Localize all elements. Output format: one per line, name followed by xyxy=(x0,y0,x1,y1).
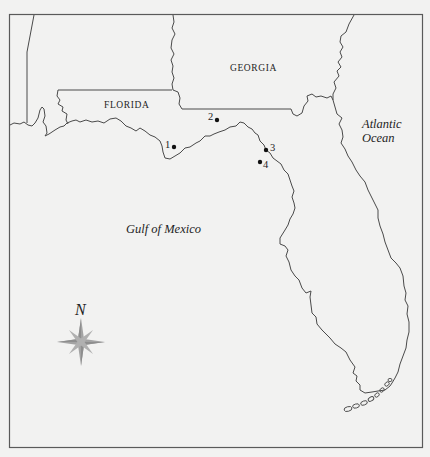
site-1-label: 1 xyxy=(165,140,170,151)
label-georgia: GEORGIA xyxy=(230,64,277,74)
site-1-dot xyxy=(172,145,176,149)
site-3-label: 3 xyxy=(270,143,275,154)
compass-rose-icon xyxy=(57,318,105,366)
north-label: N xyxy=(75,302,86,318)
gulf-coastline xyxy=(10,107,390,393)
florida-map: FLORIDA GEORGIA Atlantic Ocean Gulf of M… xyxy=(0,0,430,457)
site-4-label: 4 xyxy=(263,160,268,171)
label-florida: FLORIDA xyxy=(104,101,149,111)
map-graphic xyxy=(0,0,430,457)
georgia-alabama-boundary xyxy=(171,15,182,109)
label-gulf-of-mexico: Gulf of Mexico xyxy=(126,223,201,236)
georgia-east-boundary xyxy=(333,15,354,100)
label-atlantic-line2: Ocean xyxy=(362,132,395,145)
site-3-dot xyxy=(264,148,268,152)
florida-georgia-boundary xyxy=(182,94,333,116)
site-4-dot xyxy=(258,160,262,164)
site-2-label: 2 xyxy=(208,112,213,123)
florida-keys xyxy=(344,378,392,412)
site-markers xyxy=(172,118,268,164)
label-atlantic-line1: Atlantic xyxy=(362,118,402,131)
site-2-dot xyxy=(215,118,219,122)
alabama-boundary xyxy=(27,15,34,123)
map-frame xyxy=(10,15,423,448)
